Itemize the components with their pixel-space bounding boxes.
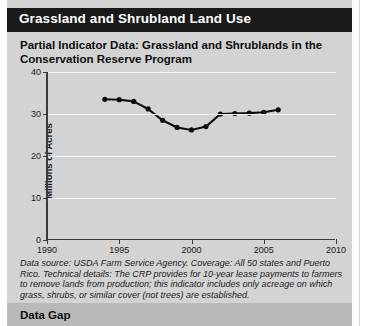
gridline-y	[47, 156, 336, 157]
data-point-marker	[174, 125, 179, 130]
section-header-bar: Grassland and Shrubland Land Use	[7, 8, 352, 32]
line-chart: Millions of Acres 0102030401990199520002…	[7, 66, 352, 256]
gridline-y	[47, 114, 336, 115]
y-axis-tick-label: 0	[36, 235, 41, 245]
y-axis-tick-label: 10	[31, 193, 41, 203]
next-section-title: Data Gap	[20, 309, 71, 321]
x-axis-tick-label: 1995	[109, 245, 129, 255]
data-point-marker	[102, 97, 107, 102]
x-axis-tick	[264, 239, 265, 244]
gridline-y	[47, 72, 336, 73]
y-axis-tick	[43, 114, 48, 115]
x-axis-tick-label: 2000	[181, 245, 201, 255]
data-point-marker	[146, 106, 151, 111]
x-axis-tick	[47, 239, 48, 244]
x-axis-tick-label: 1990	[37, 245, 57, 255]
x-axis-tick-label: 2010	[326, 245, 346, 255]
x-axis-tick	[192, 239, 193, 244]
y-axis-tick	[43, 156, 48, 157]
y-axis-tick	[43, 198, 48, 199]
data-point-marker	[276, 107, 281, 112]
data-point-marker	[117, 97, 122, 102]
page-root: Grassland and Shrubland Land Use Partial…	[0, 0, 367, 326]
page-gutter-left	[0, 0, 7, 326]
x-axis-tick-label: 2005	[254, 245, 274, 255]
y-axis-tick-label: 30	[31, 109, 41, 119]
figure-title: Partial Indicator Data: Grassland and Sh…	[20, 38, 340, 66]
y-axis-tick-label: 40	[31, 67, 41, 77]
figure-caption: Data source: USDA Farm Service Agency. C…	[20, 258, 342, 300]
x-axis-tick	[336, 239, 337, 244]
plot-area: 01020304019901995200020052010	[47, 72, 336, 240]
data-point-marker	[131, 99, 136, 104]
data-point-marker	[160, 118, 165, 123]
page-edge-rule	[359, 0, 360, 326]
x-axis-tick	[119, 239, 120, 244]
y-axis-tick-label: 20	[31, 151, 41, 161]
data-point-marker	[189, 127, 194, 132]
data-point-marker	[203, 124, 208, 129]
y-axis-tick	[43, 72, 48, 73]
gridline-y	[47, 198, 336, 199]
section-header-title: Grassland and Shrubland Land Use	[19, 11, 251, 26]
